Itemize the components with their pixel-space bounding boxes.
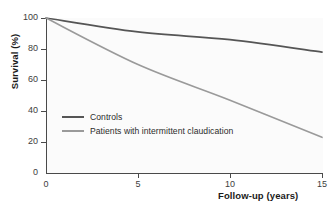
legend-swatch-icon: [62, 130, 84, 132]
y-tick-label: 20: [0, 136, 38, 146]
x-tick-label: 0: [31, 179, 61, 189]
data-curves: [46, 18, 322, 173]
survival-curve-figure: Survival (%) Follow-up (years) 100 80 60…: [0, 0, 336, 211]
legend-item-patients: Patients with intermittent claudication: [62, 124, 233, 138]
y-tick-label: 0: [0, 167, 38, 177]
x-tick-label: 10: [215, 179, 245, 189]
y-tick-label: 40: [0, 105, 38, 115]
legend-swatch-icon: [62, 116, 84, 118]
x-tick-mark: [138, 173, 139, 178]
y-tick-label: 100: [0, 12, 38, 22]
legend-item-controls: Controls: [62, 110, 233, 124]
legend-label: Patients with intermittent claudication: [90, 126, 233, 136]
x-tick-mark: [322, 173, 323, 178]
x-tick-label: 5: [123, 179, 153, 189]
x-tick-mark: [230, 173, 231, 178]
y-tick-label: 60: [0, 74, 38, 84]
x-tick-label: 15: [307, 179, 336, 189]
x-axis-title: Follow-up (years): [218, 190, 298, 201]
legend-label: Controls: [90, 112, 122, 122]
y-tick-label: 80: [0, 43, 38, 53]
legend: Controls Patients with intermittent clau…: [62, 110, 233, 138]
series-line-controls: [46, 18, 322, 52]
